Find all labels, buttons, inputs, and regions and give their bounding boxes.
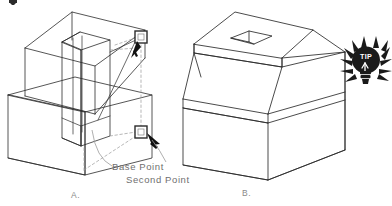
second-point-snap-marker[interactable] [135,31,147,43]
canvas-background [0,0,392,206]
base-point-label: Base Point [112,161,164,172]
figure-a-caption: A. [71,190,80,200]
tip-badge-label: TIP [360,52,372,61]
base-point-snap-marker[interactable] [135,126,147,138]
drawing-canvas: Base Point Second Point A. [0,0,392,206]
technical-drawing-figure: Base Point Second Point A. [0,0,392,206]
second-point-label: Second Point [126,174,190,185]
figure-b-caption: B. [242,188,251,198]
